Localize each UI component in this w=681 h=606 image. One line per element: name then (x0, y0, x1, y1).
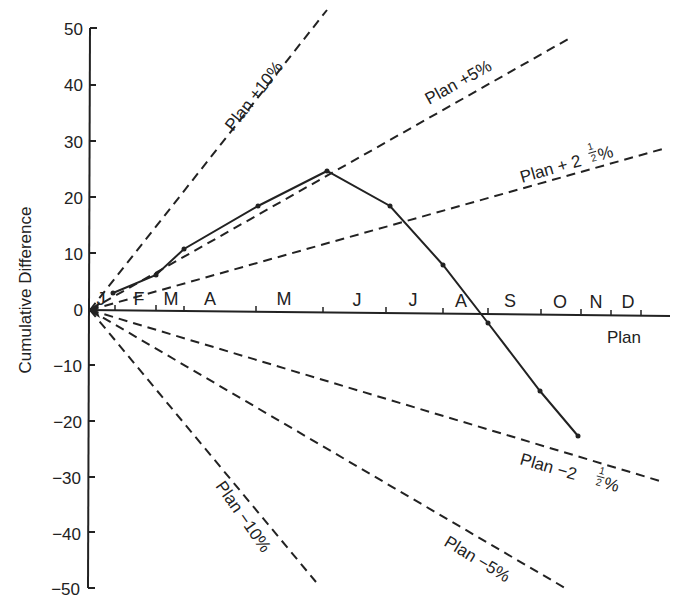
data-point (182, 247, 187, 252)
month-apr: A (204, 289, 216, 309)
y-tick-50: 50 (64, 20, 83, 39)
data-point (576, 434, 581, 439)
y-axis: 50 40 30 20 10 0 −10 −20 −30 −40 −50 Cum… (16, 20, 97, 599)
month-may: M (277, 289, 292, 309)
plan-plus-2-5-line (90, 148, 666, 310)
data-point (441, 263, 446, 268)
y-axis-title: Cumulative Difference (16, 207, 35, 374)
y-tick-minus-30: −30 (52, 469, 81, 488)
y-tick-30: 30 (64, 133, 83, 152)
y-tick-40: 40 (64, 76, 83, 95)
month-labels: J F M A M J J A S O N D (97, 289, 635, 312)
data-point (111, 291, 116, 296)
plan-minus-5-label: Plan −5% (441, 532, 514, 586)
svg-text:%: % (596, 142, 616, 164)
plan-plus-10-label: Plan +10% (221, 58, 287, 135)
plan-minus-2-5-label: Plan −2 1 2 % (518, 443, 623, 496)
y-tick-minus-20: −20 (53, 413, 82, 432)
svg-text:1: 1 (586, 140, 595, 152)
month-feb: F (134, 289, 145, 309)
svg-text:Plan + 2: Plan + 2 (518, 151, 584, 187)
month-sep: S (504, 291, 516, 311)
plan-baseline-label: Plan (607, 328, 641, 347)
plan-plus-2-5-label: Plan + 2 1 2 % (516, 135, 616, 186)
data-point (388, 204, 393, 209)
data-point (256, 204, 261, 209)
data-point (486, 321, 491, 326)
month-dec: D (622, 292, 635, 312)
month-nov: N (590, 292, 603, 312)
svg-text:%: % (602, 474, 622, 496)
plan-plus-10-line (90, 10, 327, 310)
month-mar: M (164, 289, 179, 309)
month-jul: J (409, 290, 418, 310)
y-tick-10: 10 (64, 245, 83, 264)
month-jun: J (353, 290, 362, 310)
y-tick-20: 20 (64, 189, 83, 208)
data-point (325, 169, 330, 174)
plan-minus-5-line (90, 310, 565, 588)
y-tick-0: 0 (74, 301, 83, 320)
plan-baseline: Plan (88, 305, 670, 347)
y-tick-minus-10: −10 (53, 357, 82, 376)
data-point (538, 389, 543, 394)
y-tick-minus-40: −40 (52, 525, 81, 544)
plan-minus-10-line (90, 310, 316, 582)
plan-minus-10-label: Plan −10% (212, 477, 275, 556)
cumulative-difference-chart: 50 40 30 20 10 0 −10 −20 −30 −40 −50 Cum… (0, 0, 681, 606)
y-tick-minus-50: −50 (51, 580, 80, 599)
month-oct: O (553, 292, 567, 312)
plan-minus-2-5-line (90, 310, 660, 481)
data-point (154, 273, 159, 278)
